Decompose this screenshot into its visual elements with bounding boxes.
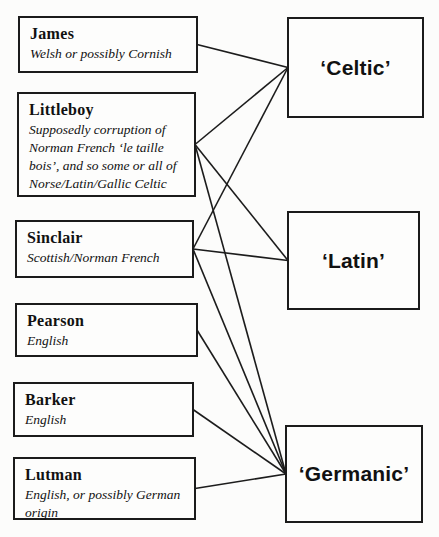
surname-origin-note: English xyxy=(27,332,188,350)
connection-sinclair-celtic xyxy=(193,68,288,250)
surname-origin-note: English, or possibly German origin xyxy=(25,486,186,522)
surname-label: James xyxy=(30,25,188,43)
language-family-label: ‘Germanic’ xyxy=(299,462,410,486)
surname-label: Barker xyxy=(25,391,184,409)
surname-label: Littleboy xyxy=(29,101,186,119)
surname-origin-note: English xyxy=(25,411,184,429)
connection-lutman-germanic xyxy=(195,474,286,489)
node-pearson: Pearson English xyxy=(15,303,198,357)
connection-sinclair-latin xyxy=(193,249,288,261)
node-lutman: Lutman English, or possibly German origi… xyxy=(13,457,196,520)
surname-label: Pearson xyxy=(27,312,188,330)
node-germanic: ‘Germanic’ xyxy=(285,425,423,523)
connection-sinclair-germanic xyxy=(193,249,286,474)
language-family-label: ‘Celtic’ xyxy=(320,56,390,80)
node-littleboy: Littleboy Supposedly corruption of Norma… xyxy=(17,92,196,197)
surname-label: Sinclair xyxy=(27,229,184,247)
connection-littleboy-celtic xyxy=(195,68,288,145)
connection-littleboy-latin xyxy=(195,145,288,261)
surname-label: Lutman xyxy=(25,466,186,484)
node-sinclair: Sinclair Scottish/Norman French xyxy=(15,220,194,278)
node-james: James Welsh or possibly Cornish xyxy=(18,16,198,73)
node-celtic: ‘Celtic’ xyxy=(287,17,424,118)
connection-littleboy-germanic xyxy=(195,145,286,475)
node-barker: Barker English xyxy=(13,382,194,437)
surname-origin-note: Welsh or possibly Cornish xyxy=(30,45,188,63)
surname-origin-note: Scottish/Norman French xyxy=(27,249,184,267)
surname-origin-note: Supposedly corruption of Norman French ‘… xyxy=(29,121,186,193)
surname-origin-diagram: James Welsh or possibly Cornish Littlebo… xyxy=(0,0,439,537)
language-family-label: ‘Latin’ xyxy=(322,249,385,273)
connection-james-celtic xyxy=(197,45,288,68)
connection-pearson-germanic xyxy=(197,330,286,474)
node-latin: ‘Latin’ xyxy=(287,211,420,310)
